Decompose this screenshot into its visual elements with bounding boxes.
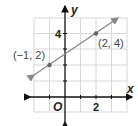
point-b-label: (2, 4): [98, 37, 124, 49]
x-axis-label: x: [126, 82, 135, 96]
point-a: [47, 63, 51, 67]
y-axis-label: y: [70, 3, 79, 17]
y-tick-label: 4: [55, 28, 62, 40]
point-a-label: (−1, 2): [13, 49, 45, 61]
point-b: [94, 31, 98, 35]
origin-label: O: [53, 100, 63, 114]
x-tick-label: 2: [93, 101, 99, 113]
coordinate-plane: y x O 2 4 (−1, 2) (2, 4): [0, 0, 138, 126]
